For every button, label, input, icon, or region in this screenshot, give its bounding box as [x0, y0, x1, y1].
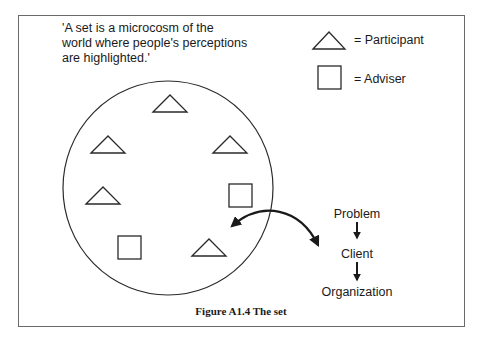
participant-triangle-icon [153, 95, 187, 112]
figure-caption: Figure A1.4 The set [0, 305, 482, 317]
set-diagram [0, 0, 482, 345]
two-way-arrow-icon [232, 211, 318, 245]
participant-triangle-icon [213, 136, 247, 153]
legend-square-icon [318, 66, 341, 89]
flow-item-problem: Problem [317, 207, 397, 221]
legend-participant-label: = Participant [354, 33, 424, 47]
flow-item-client: Client [317, 247, 397, 261]
participant-triangle-icon [86, 187, 120, 204]
adviser-square-icon [118, 236, 141, 259]
participant-triangle-icon [91, 136, 125, 153]
set-circle [63, 81, 273, 295]
legend-adviser-label: = Adviser [354, 72, 406, 86]
legend-triangle-icon [313, 32, 345, 49]
adviser-square-icon [229, 184, 252, 207]
participant-triangle-icon [192, 239, 226, 256]
flow-item-organization: Organization [307, 285, 407, 299]
